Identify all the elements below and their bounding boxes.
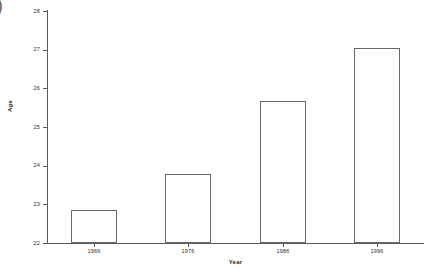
y-tick-mark (43, 88, 47, 89)
bar (165, 174, 211, 243)
y-axis-line (47, 10, 48, 244)
y-tick-mark (43, 243, 47, 244)
y-tick-mark (43, 127, 47, 128)
x-tick-mark (94, 243, 95, 247)
bar (71, 210, 117, 243)
x-tick-label: 1986 (260, 248, 306, 254)
bar (260, 101, 306, 243)
y-tick-mark (43, 166, 47, 167)
y-tick-label: 25 (18, 124, 40, 130)
x-axis-title: Year (47, 259, 424, 265)
x-tick-mark (377, 243, 378, 247)
y-tick-mark (43, 11, 47, 12)
y-tick-label: 27 (18, 46, 40, 52)
y-tick-label: 28 (18, 8, 40, 14)
y-tick-label: 22 (18, 240, 40, 246)
y-axis-title: Age (7, 100, 13, 112)
y-tick-label: 26 (18, 85, 40, 91)
y-tick-label: 24 (18, 162, 40, 168)
x-tick-label: 1976 (165, 248, 211, 254)
y-tick-mark (43, 50, 47, 51)
x-tick-mark (188, 243, 189, 247)
bar (354, 48, 400, 243)
x-tick-mark (283, 243, 284, 247)
y-tick-mark (43, 204, 47, 205)
bar-chart: 22232425262728 1966197619861996 Year Age (0, 0, 434, 272)
x-tick-label: 1966 (71, 248, 117, 254)
y-tick-label: 23 (18, 201, 40, 207)
x-axis-line (47, 243, 424, 244)
x-tick-label: 1996 (354, 248, 400, 254)
